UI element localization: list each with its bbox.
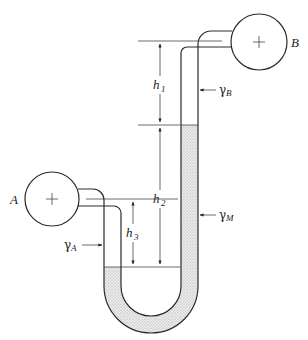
svg-text:h: h [126, 225, 133, 240]
svg-text:h: h [153, 191, 160, 206]
vessel-b-label: B [291, 35, 299, 50]
svg-text:A: A [70, 243, 77, 253]
svg-text:2: 2 [161, 198, 166, 208]
svg-text:B: B [226, 88, 232, 98]
svg-text:1: 1 [161, 84, 166, 94]
svg-text:M: M [225, 213, 234, 223]
vessel-a-label: A [9, 192, 18, 207]
vessel-b: B [231, 14, 299, 70]
dimension-h2: h 2 [153, 128, 166, 264]
fluid-label-gamma-m: γ M [200, 208, 234, 223]
manometer-diagram: A B h 1 h 2 h 3 γ B γ M [0, 0, 308, 340]
manometer-fluid [104, 125, 198, 333]
dimension-h3: h 3 [126, 202, 139, 264]
dimension-h1: h 1 [153, 44, 166, 122]
svg-text:3: 3 [133, 232, 139, 242]
vessel-a: A [9, 172, 79, 226]
fluid-label-gamma-a: γ A [64, 238, 102, 253]
svg-text:h: h [153, 77, 160, 92]
fluid-label-gamma-b: γ B [200, 83, 232, 98]
